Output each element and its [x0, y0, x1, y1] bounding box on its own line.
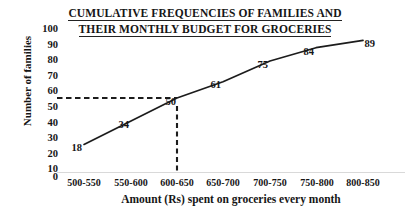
data-label-2: 50 [166, 97, 177, 107]
x-tick-600-650: 600-650 [160, 177, 193, 189]
plot-area: 18 34 50 61 75 84 89 [57, 24, 402, 172]
x-axis-line [57, 172, 405, 173]
data-label-3: 61 [211, 80, 222, 90]
y-tick-50: 50 [30, 102, 58, 112]
x-tick-750-800: 750-800 [300, 177, 333, 189]
y-tick-20: 20 [30, 149, 58, 159]
x-axis-ticks: 500-550 550-600 600-650 650-700 700-750 … [0, 177, 410, 191]
y-tick-40: 40 [30, 118, 58, 128]
x-tick-700-750: 700-750 [253, 177, 286, 189]
ogive-svg [57, 24, 402, 172]
y-tick-30: 30 [30, 133, 58, 143]
y-tick-70: 70 [30, 71, 58, 81]
x-axis-label: Amount (Rs) spent on groceries every mon… [57, 193, 405, 205]
x-tick-500-550: 500-550 [67, 177, 100, 189]
cumulative-frequency-chart: CUMULATIVE FREQUENCIES OF FAMILIES AND T… [0, 0, 410, 219]
y-tick-80: 80 [30, 55, 58, 65]
y-tick-60: 60 [30, 86, 58, 96]
x-tick-550-600: 550-600 [114, 177, 147, 189]
y-tick-90: 90 [30, 40, 58, 50]
data-label-5: 84 [304, 47, 315, 57]
y-axis-ticks: 100 90 80 70 60 50 40 30 20 10 0 [30, 24, 58, 180]
data-label-0: 18 [72, 143, 83, 153]
x-tick-650-700: 650-700 [206, 177, 239, 189]
x-tick-800-850: 800-850 [346, 177, 379, 189]
chart-title-line-1: CUMULATIVE FREQUENCIES OF FAMILIES AND [68, 7, 341, 21]
data-label-6: 89 [365, 39, 376, 49]
data-label-4: 75 [258, 60, 269, 70]
data-label-1: 34 [119, 120, 130, 130]
y-tick-100: 100 [30, 24, 58, 34]
